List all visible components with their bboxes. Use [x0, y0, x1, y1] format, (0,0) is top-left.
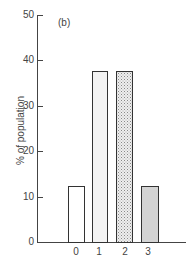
- y-tick-20: [38, 151, 43, 152]
- y-tick-30: [38, 106, 43, 107]
- y-tick-label-50: 50: [14, 10, 34, 20]
- panel-label: (b): [58, 17, 70, 28]
- y-tick-label-0: 0: [14, 237, 34, 247]
- y-axis-label: % of population: [15, 81, 26, 181]
- bar-0: [68, 186, 85, 243]
- x-tick-label-2: 2: [119, 247, 131, 257]
- y-tick-50: [38, 15, 43, 16]
- x-tick-label-0: 0: [70, 247, 82, 257]
- bar-1: [92, 71, 108, 243]
- bar-3: [141, 186, 159, 243]
- y-tick-label-30: 30: [14, 101, 34, 111]
- bar-2: [116, 71, 133, 243]
- y-tick-40: [38, 60, 43, 61]
- y-tick-label-20: 20: [14, 146, 34, 156]
- x-axis-line: [37, 242, 186, 243]
- x-tick-label-1: 1: [93, 247, 105, 257]
- y-tick-label-40: 40: [14, 55, 34, 65]
- y-tick-label-10: 10: [14, 192, 34, 202]
- x-tick-label-3: 3: [142, 247, 154, 257]
- y-tick-10: [38, 197, 43, 198]
- y-axis-line: [37, 15, 38, 243]
